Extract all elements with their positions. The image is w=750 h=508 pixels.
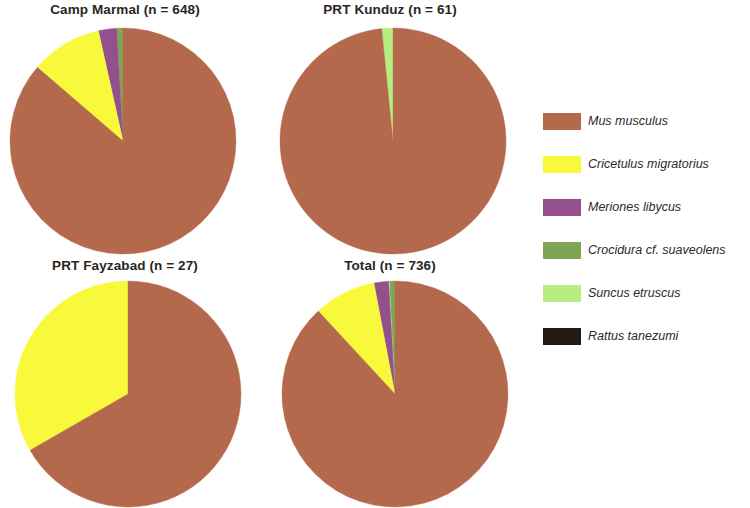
- panel-title-total: Total (n = 736): [265, 258, 515, 273]
- legend-swatch-cricetulus-migratorius: [543, 156, 581, 173]
- legend-item-meriones-libycus: Meriones libycus: [543, 198, 750, 218]
- legend-swatch-meriones-libycus: [543, 199, 581, 216]
- panel-camp-marmal: Camp Marmal (n = 648): [0, 2, 250, 252]
- legend-item-cricetulus-migratorius: Cricetulus migratorius: [543, 155, 750, 175]
- panel-title-camp-marmal: Camp Marmal (n = 648): [0, 2, 250, 17]
- legend: Mus musculusCricetulus migratoriusMerion…: [543, 112, 750, 362]
- legend-label-crocidura-cf-suaveolens: Crocidura cf. suaveolens: [588, 241, 726, 260]
- pie-svg-prt-fayzabad: [14, 280, 242, 508]
- legend-swatch-crocidura-cf-suaveolens: [543, 242, 581, 259]
- legend-label-cricetulus-migratorius: Cricetulus migratorius: [588, 155, 709, 174]
- legend-label-mus-musculus: Mus musculus: [588, 112, 668, 131]
- pie-slice-0: [280, 28, 506, 254]
- legend-swatch-rattus-tanezumi: [543, 328, 581, 345]
- legend-label-meriones-libycus: Meriones libycus: [588, 198, 681, 217]
- legend-item-crocidura-cf-suaveolens: Crocidura cf. suaveolens: [543, 241, 750, 261]
- pie-prt-kunduz: [279, 27, 507, 255]
- legend-swatch-suncus-etruscus: [543, 285, 581, 302]
- pie-svg-total: [281, 280, 509, 508]
- pie-svg-prt-kunduz: [279, 27, 507, 255]
- panel-prt-fayzabad: PRT Fayzabad (n = 27): [0, 258, 250, 506]
- panel-total: Total (n = 736): [265, 258, 515, 506]
- panel-title-prt-fayzabad: PRT Fayzabad (n = 27): [0, 258, 250, 273]
- legend-label-rattus-tanezumi: Rattus tanezumi: [588, 327, 678, 346]
- legend-item-mus-musculus: Mus musculus: [543, 112, 750, 132]
- legend-swatch-mus-musculus: [543, 113, 581, 130]
- legend-item-rattus-tanezumi: Rattus tanezumi: [543, 327, 750, 347]
- legend-label-suncus-etruscus: Suncus etruscus: [588, 284, 680, 303]
- panel-prt-kunduz: PRT Kunduz (n = 61): [265, 2, 515, 252]
- panel-title-prt-kunduz: PRT Kunduz (n = 61): [265, 2, 515, 17]
- pie-camp-marmal: [9, 27, 237, 255]
- pie-slice-0: [282, 281, 508, 507]
- pie-svg-camp-marmal: [9, 27, 237, 255]
- pie-total: [281, 280, 509, 508]
- pie-prt-fayzabad: [14, 280, 242, 508]
- legend-item-suncus-etruscus: Suncus etruscus: [543, 284, 750, 304]
